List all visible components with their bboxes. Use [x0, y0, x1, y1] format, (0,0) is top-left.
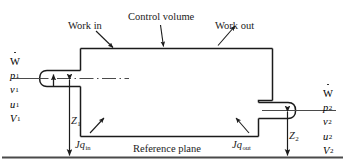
- inlet-pressure-symbol: p: [10, 70, 15, 81]
- outlet-internal-energy-symbol: u: [323, 131, 328, 142]
- label-z2: Z2: [289, 126, 298, 142]
- label-work-out: Work out: [215, 21, 254, 32]
- inlet-work-symbol: W: [10, 56, 20, 67]
- work-in-leader: [96, 31, 113, 48]
- label-heat-out: Jqout: [232, 135, 250, 151]
- inlet-state-labels: W p1 v1 u1 V1: [10, 56, 20, 127]
- outlet-velocity-subscript: 2: [330, 147, 334, 155]
- heat-in-subscript: in: [85, 144, 90, 151]
- outlet-velocity-row: V2: [323, 145, 333, 159]
- inlet-velocity-subscript: 1: [17, 115, 21, 123]
- control-volume-diagram: Control volume Work in Work out Referenc…: [0, 0, 345, 168]
- label-work-in: Work in: [68, 21, 102, 32]
- inlet-pressure-subscript: 1: [16, 72, 20, 80]
- outlet-specific-volume-row: v2: [323, 116, 333, 130]
- outlet-specific-volume-symbol: v: [323, 116, 328, 127]
- heat-in-leader: [90, 118, 104, 133]
- inlet-work-row: W: [10, 56, 20, 70]
- inlet-specific-volume-symbol: v: [10, 84, 15, 95]
- outlet-specific-volume-subscript: 2: [328, 118, 332, 126]
- heat-out-leader: [236, 118, 249, 133]
- inlet-specific-volume-subscript: 1: [15, 86, 19, 94]
- heat-out-subscript: out: [242, 144, 250, 151]
- outlet-pressure-subscript: 2: [329, 104, 333, 112]
- control-volume-leader: [161, 25, 164, 47]
- inlet-internal-energy-row: u1: [10, 99, 20, 113]
- outlet-work-row: W: [323, 88, 333, 102]
- label-control-volume: Control volume: [128, 12, 194, 23]
- z1-subscript: 1: [77, 120, 81, 128]
- outlet-work-symbol: W: [323, 88, 333, 99]
- inlet-velocity-row: V1: [10, 113, 20, 127]
- outlet-pressure-symbol: p: [323, 102, 328, 113]
- outlet-pressure-row: p2: [323, 102, 333, 116]
- outlet-internal-energy-subscript: 2: [329, 133, 333, 141]
- z1-variable: Z: [71, 115, 77, 126]
- inlet-specific-volume-row: v1: [10, 84, 20, 98]
- z2-variable: Z: [289, 130, 295, 141]
- inlet-pressure-row: p1: [10, 70, 20, 84]
- inlet-internal-energy-symbol: u: [10, 99, 15, 110]
- z2-subscript: 2: [295, 135, 299, 143]
- inlet-velocity-symbol: V: [10, 113, 16, 124]
- outlet-velocity-symbol: V: [323, 145, 329, 156]
- inlet-internal-energy-subscript: 1: [16, 101, 20, 109]
- label-z1: Z1: [71, 111, 80, 127]
- label-reference-plane: Reference plane: [133, 144, 201, 155]
- label-heat-in: Jqin: [75, 135, 90, 151]
- outlet-internal-energy-row: u2: [323, 131, 333, 145]
- outlet-state-labels: W p2 v2 u2 V2: [323, 88, 333, 159]
